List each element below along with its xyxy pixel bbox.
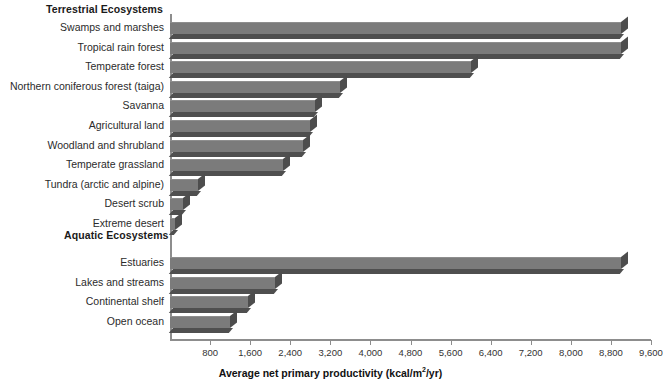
x-tick-label: 6,400 (479, 347, 503, 358)
category-label: Desert scrub (104, 197, 164, 209)
x-tick-label: 800 (202, 347, 218, 358)
bar-side-face (310, 115, 317, 132)
category-label: Northern coniferous forest (taiga) (10, 80, 164, 92)
x-tick (250, 340, 251, 345)
bar (170, 81, 340, 96)
bar-side-face (230, 311, 237, 328)
x-tick (611, 340, 612, 345)
bar-bottom-face (169, 132, 313, 137)
group-heading-aquatic: Aquatic Ecosystems (64, 229, 169, 241)
bar (170, 179, 198, 194)
bar (170, 61, 471, 76)
bar-side-face (621, 17, 628, 34)
category-label: Open ocean (107, 315, 164, 327)
bar-bottom-face (169, 171, 286, 176)
bar (170, 257, 621, 272)
x-tick (451, 340, 452, 345)
x-tick-label: 1,600 (238, 347, 262, 358)
category-label: Temperate grassland (66, 158, 164, 170)
x-tick-label: 8,000 (559, 347, 583, 358)
x-tick (491, 340, 492, 345)
bar (170, 218, 175, 233)
x-tick (531, 340, 532, 345)
x-axis-title-suffix: /yr) (426, 367, 442, 379)
bar-bottom-face (169, 112, 318, 117)
bar (170, 159, 283, 174)
category-label: Woodland and shrubland (47, 139, 164, 151)
bar-side-face (175, 213, 182, 230)
bar (170, 198, 183, 213)
category-label: Estuaries (120, 256, 164, 268)
x-tick (330, 340, 331, 345)
bar-bottom-face (169, 230, 178, 235)
bar-front-face (170, 100, 315, 112)
bar-front-face (170, 81, 340, 93)
category-label: Savanna (123, 99, 164, 111)
bar (170, 277, 275, 292)
x-tick-label: 3,200 (318, 347, 342, 358)
bar (170, 22, 621, 37)
category-label: Tundra (arctic and alpine) (45, 178, 164, 190)
bar-bottom-face (169, 54, 624, 59)
bar-side-face (621, 252, 628, 269)
x-axis-title-prefix: Average net primary productivity (kcal/m (219, 367, 422, 379)
bar-front-face (170, 61, 471, 73)
x-tick (411, 340, 412, 345)
bar-front-face (170, 316, 230, 328)
bar-front-face (170, 296, 248, 308)
bar-side-face (621, 36, 628, 53)
bar (170, 296, 248, 311)
bar-bottom-face (169, 308, 251, 313)
bar (170, 42, 621, 57)
bar-front-face (170, 218, 175, 230)
x-tick (370, 340, 371, 345)
bar-front-face (170, 198, 183, 210)
category-label: Extreme desert (93, 217, 164, 229)
bar-front-face (170, 257, 621, 269)
category-label: Temperate forest (85, 60, 164, 72)
x-tick-label: 9,600 (639, 347, 663, 358)
category-label: Lakes and streams (75, 276, 164, 288)
bar-front-face (170, 42, 621, 54)
bar (170, 100, 315, 115)
x-tick (571, 340, 572, 345)
x-tick-label: 8,800 (599, 347, 623, 358)
category-label: Swamps and marshes (60, 21, 164, 33)
bar (170, 316, 230, 331)
x-tick-label: 2,400 (278, 347, 302, 358)
x-tick-label: 7,200 (519, 347, 543, 358)
x-axis-title: Average net primary productivity (kcal/m… (0, 366, 661, 379)
x-tick (651, 340, 652, 345)
bar-bottom-face (169, 289, 278, 294)
bar-front-face (170, 159, 283, 171)
bar (170, 120, 310, 135)
bar-bottom-face (169, 34, 624, 39)
bar-front-face (170, 179, 198, 191)
bar-front-face (170, 120, 310, 132)
bar (170, 140, 303, 155)
category-label: Tropical rain forest (77, 41, 164, 53)
x-tick (290, 340, 291, 345)
bar-bottom-face (169, 73, 474, 78)
bar-side-face (315, 95, 322, 112)
category-label: Continental shelf (86, 295, 164, 307)
category-label: Agricultural land (89, 119, 164, 131)
x-tick-label: 4,000 (359, 347, 383, 358)
bar-front-face (170, 22, 621, 34)
bar-bottom-face (169, 328, 233, 333)
bar-front-face (170, 277, 275, 289)
bar-front-face (170, 140, 303, 152)
group-heading-terrestrial: Terrestrial Ecosystems (46, 3, 163, 15)
x-tick-label: 5,600 (439, 347, 463, 358)
bar-bottom-face (169, 269, 624, 274)
x-tick (210, 340, 211, 345)
x-tick-label: 4,800 (399, 347, 423, 358)
